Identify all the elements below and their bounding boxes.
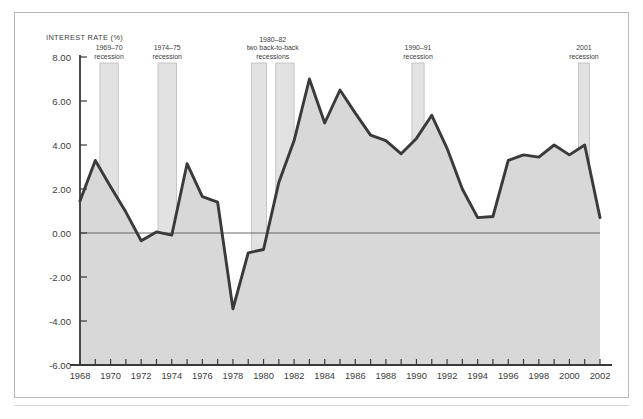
annotation-line: 2001: [576, 44, 591, 51]
annotation-line: recession: [569, 53, 599, 60]
y-tick-label: 4.00: [52, 140, 71, 151]
x-tick-label: 1992: [437, 371, 458, 381]
annotation-line: 1974–75: [154, 44, 181, 51]
annotation-line: two back-to-back: [247, 44, 300, 51]
x-tick-label: 1994: [467, 371, 488, 381]
annotation-line: 1980–82: [259, 36, 286, 43]
y-tick-label: 6.00: [52, 96, 71, 107]
x-tick-label: 1996: [498, 371, 519, 381]
recession-annotations-group: 1969–70recession1974–75recession1980–82t…: [94, 36, 599, 60]
interest-rate-area-chart: 8.006.004.002.000.00-2.00-4.00-6.00 1968…: [0, 0, 643, 419]
y-tick-label: 0.00: [52, 228, 71, 239]
y-tick-label: -4.00: [49, 316, 71, 327]
annotation-recession-1969-70: 1969–70recession: [94, 44, 124, 60]
annotation-line: recessions: [256, 53, 289, 60]
x-tick-label: 1982: [284, 371, 305, 381]
annotation-recession-1990-91: 1990–91recession: [403, 44, 433, 60]
y-tick-label: 8.00: [52, 52, 71, 63]
x-tick-label: 1970: [100, 371, 121, 381]
x-tick-label: 1988: [376, 371, 397, 381]
y-tick-label: 2.00: [52, 184, 71, 195]
x-tick-label: 1998: [528, 371, 549, 381]
annotation-recession-1980-82: 1980–82two back-to-backrecessions: [247, 36, 300, 60]
x-tick-label: 1968: [70, 371, 91, 381]
annotation-line: 1990–91: [405, 44, 432, 51]
y-axis-title: INTEREST RATE (%): [46, 33, 123, 42]
x-tick-label: 1976: [192, 371, 213, 381]
x-tick-label: 1978: [223, 371, 244, 381]
annotation-line: recession: [152, 53, 182, 60]
chart-figure: 8.006.004.002.000.00-2.00-4.00-6.00 1968…: [0, 0, 643, 419]
y-tick-label: -6.00: [49, 360, 71, 371]
annotation-line: recession: [403, 53, 433, 60]
x-tick-label: 2000: [559, 371, 580, 381]
annotation-recession-1974-75: 1974–75recession: [152, 44, 182, 60]
x-tick-label: 1984: [314, 371, 335, 381]
y-tick-label: -2.00: [49, 272, 71, 283]
annotation-line: 1969–70: [96, 44, 123, 51]
annotation-line: recession: [94, 53, 124, 60]
x-tick-label: 1972: [131, 371, 152, 381]
x-tick-label: 1990: [406, 371, 427, 381]
x-tick-label: 1980: [253, 371, 274, 381]
x-tick-label: 1986: [345, 371, 366, 381]
annotation-recession-2001: 2001recession: [569, 44, 599, 60]
x-tick-label: 1974: [161, 371, 182, 381]
x-tick-label: 2002: [590, 371, 611, 381]
